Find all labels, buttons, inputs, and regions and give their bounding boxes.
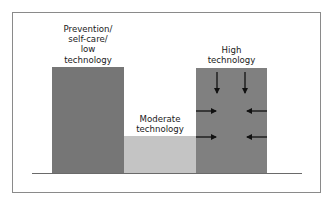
compression-arrows <box>0 0 336 206</box>
